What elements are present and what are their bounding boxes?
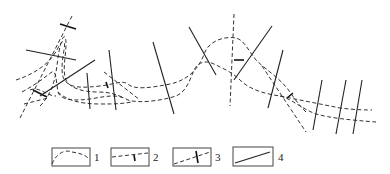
legend-label: 1 [94, 151, 100, 163]
dashed-trace [280, 96, 376, 122]
dashed-faults [20, 14, 306, 132]
legend-label: 3 [215, 151, 221, 163]
legend-symbol-tick [134, 155, 135, 161]
legend-label: 2 [153, 151, 159, 163]
legend: 1 2 3 4 [52, 147, 284, 166]
legend-item-1: 1 [52, 148, 100, 166]
legend-item-2: 2 [111, 148, 159, 166]
solid-line [336, 80, 346, 134]
dashed-fault [262, 66, 306, 132]
legend-box [173, 148, 211, 166]
legend-box [233, 147, 273, 166]
legend-label: 4 [278, 151, 284, 163]
solid-line [313, 80, 322, 130]
legend-box [52, 148, 90, 166]
solid-line [40, 60, 95, 96]
solid-lines [26, 26, 362, 134]
dashed-traces [0, 37, 376, 122]
diagram-canvas: 1 2 3 4 [0, 0, 390, 174]
legend-item-4: 4 [233, 147, 284, 166]
geologic-diagram: 1 2 3 4 [0, 0, 390, 174]
fault-ticks [33, 24, 293, 98]
legend-box [111, 148, 149, 166]
solid-line [189, 27, 216, 75]
solid-line [153, 42, 174, 114]
legend-item-3: 3 [173, 148, 221, 166]
tick-mark [106, 82, 108, 88]
dashed-fault [230, 14, 234, 106]
solid-line [353, 80, 362, 134]
